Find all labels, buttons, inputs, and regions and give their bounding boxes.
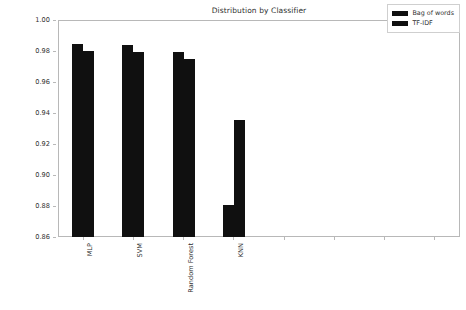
bar xyxy=(223,205,234,237)
y-tick-mark xyxy=(53,51,56,52)
chart-figure: Distribution by Classifier Accuracy Scor… xyxy=(0,0,466,310)
y-tick-mark xyxy=(53,20,56,21)
y-tick-label: 0.88 xyxy=(35,201,50,211)
legend-item: TF-IDF xyxy=(392,19,454,28)
y-tick-mark xyxy=(53,206,56,207)
y-tick-label: 0.96 xyxy=(35,77,50,87)
legend-label: TF-IDF xyxy=(412,19,432,28)
y-tick-mark xyxy=(53,144,56,145)
plot-area: Accuracy Score xyxy=(58,20,460,237)
x-tick-mark xyxy=(334,237,335,240)
x-tick-mark xyxy=(284,237,285,240)
bar xyxy=(173,52,184,237)
y-tick-label: 0.92 xyxy=(35,139,50,149)
bar xyxy=(72,44,83,237)
bar xyxy=(83,51,94,237)
legend-label: Bag of words xyxy=(412,9,454,18)
y-tick-mark xyxy=(53,237,56,238)
bar xyxy=(234,120,245,237)
legend-swatch xyxy=(392,21,408,27)
legend-swatch xyxy=(392,11,408,17)
y-tick-mark xyxy=(53,82,56,83)
bar xyxy=(184,59,195,237)
chart-legend: Bag of wordsTF-IDF xyxy=(387,4,460,33)
y-tick-label: 0.90 xyxy=(35,170,50,180)
y-tick-mark xyxy=(53,113,56,114)
y-tick-label: 1.00 xyxy=(35,15,50,25)
y-tick-label: 0.94 xyxy=(35,108,50,118)
x-tick-mark xyxy=(384,237,385,240)
y-tick-mark xyxy=(53,175,56,176)
x-tick-mark xyxy=(434,237,435,240)
bar xyxy=(122,45,133,237)
bar xyxy=(133,52,144,237)
y-tick-label: 0.98 xyxy=(35,46,50,56)
legend-item: Bag of words xyxy=(392,9,454,18)
y-tick-label: 0.86 xyxy=(35,232,50,242)
